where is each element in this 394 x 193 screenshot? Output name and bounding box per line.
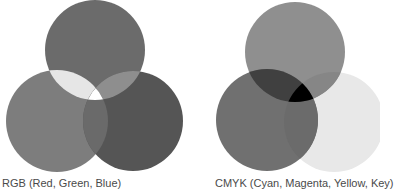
rgb-diagram: [6, 0, 183, 172]
cmyk-diagram: [216, 2, 380, 172]
rgb-caption: RGB (Red, Green, Blue): [2, 177, 121, 189]
cmyk-caption: CMYK (Cyan, Magenta, Yellow, Key): [215, 177, 394, 189]
